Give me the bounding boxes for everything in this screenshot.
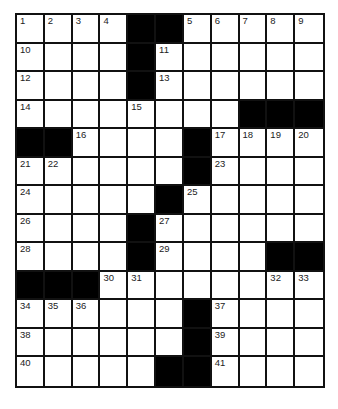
grid-cell[interactable]: 35: [45, 300, 73, 329]
grid-cell[interactable]: [295, 44, 323, 73]
grid-cell[interactable]: [184, 44, 212, 73]
grid-cell[interactable]: 32: [267, 272, 295, 301]
grid-cell[interactable]: [295, 186, 323, 215]
grid-cell[interactable]: [212, 44, 240, 73]
grid-cell[interactable]: [212, 215, 240, 244]
grid-cell[interactable]: 12: [17, 72, 45, 101]
grid-cell[interactable]: [295, 72, 323, 101]
grid-cell[interactable]: 13: [156, 72, 184, 101]
grid-cell[interactable]: [295, 300, 323, 329]
grid-cell[interactable]: [184, 215, 212, 244]
grid-cell[interactable]: [100, 300, 128, 329]
grid-cell[interactable]: [240, 300, 268, 329]
grid-cell[interactable]: 28: [17, 243, 45, 272]
grid-cell[interactable]: [45, 186, 73, 215]
grid-cell[interactable]: [212, 272, 240, 301]
grid-cell[interactable]: [45, 243, 73, 272]
grid-cell[interactable]: [73, 329, 101, 358]
grid-cell[interactable]: 7: [240, 15, 268, 44]
grid-cell[interactable]: 24: [17, 186, 45, 215]
grid-cell[interactable]: 10: [17, 44, 45, 73]
grid-cell[interactable]: [100, 101, 128, 130]
grid-cell[interactable]: 31: [128, 272, 156, 301]
grid-cell[interactable]: [73, 72, 101, 101]
grid-cell[interactable]: [100, 72, 128, 101]
grid-cell[interactable]: 30: [100, 272, 128, 301]
grid-cell[interactable]: [128, 357, 156, 386]
grid-cell[interactable]: 11: [156, 44, 184, 73]
grid-cell[interactable]: 36: [73, 300, 101, 329]
grid-cell[interactable]: [73, 186, 101, 215]
grid-cell[interactable]: [240, 158, 268, 187]
grid-cell[interactable]: [267, 300, 295, 329]
grid-cell[interactable]: [100, 329, 128, 358]
grid-cell[interactable]: [240, 186, 268, 215]
grid-cell[interactable]: [100, 215, 128, 244]
grid-cell[interactable]: [73, 357, 101, 386]
grid-cell[interactable]: [295, 215, 323, 244]
grid-cell[interactable]: [212, 72, 240, 101]
grid-cell[interactable]: 8: [267, 15, 295, 44]
grid-cell[interactable]: 17: [212, 129, 240, 158]
grid-cell[interactable]: [267, 186, 295, 215]
grid-cell[interactable]: [295, 357, 323, 386]
grid-cell[interactable]: [184, 72, 212, 101]
grid-cell[interactable]: 3: [73, 15, 101, 44]
grid-cell[interactable]: [73, 44, 101, 73]
grid-cell[interactable]: [156, 129, 184, 158]
grid-cell[interactable]: 2: [45, 15, 73, 44]
grid-cell[interactable]: [45, 44, 73, 73]
grid-cell[interactable]: [267, 329, 295, 358]
grid-cell[interactable]: [73, 101, 101, 130]
grid-cell[interactable]: [45, 357, 73, 386]
grid-cell[interactable]: [128, 329, 156, 358]
grid-cell[interactable]: [267, 44, 295, 73]
grid-cell[interactable]: 21: [17, 158, 45, 187]
grid-cell[interactable]: 40: [17, 357, 45, 386]
grid-cell[interactable]: [156, 300, 184, 329]
grid-cell[interactable]: [240, 329, 268, 358]
grid-cell[interactable]: [100, 243, 128, 272]
grid-cell[interactable]: [73, 215, 101, 244]
grid-cell[interactable]: [156, 329, 184, 358]
grid-cell[interactable]: [156, 158, 184, 187]
grid-cell[interactable]: [156, 101, 184, 130]
grid-cell[interactable]: 4: [100, 15, 128, 44]
grid-cell[interactable]: 26: [17, 215, 45, 244]
grid-cell[interactable]: [184, 101, 212, 130]
grid-cell[interactable]: [267, 72, 295, 101]
grid-cell[interactable]: 5: [184, 15, 212, 44]
grid-cell[interactable]: [128, 158, 156, 187]
grid-cell[interactable]: [240, 243, 268, 272]
grid-cell[interactable]: 39: [212, 329, 240, 358]
grid-cell[interactable]: [184, 243, 212, 272]
grid-cell[interactable]: [45, 72, 73, 101]
grid-cell[interactable]: 37: [212, 300, 240, 329]
grid-cell[interactable]: 18: [240, 129, 268, 158]
grid-cell[interactable]: [240, 44, 268, 73]
grid-cell[interactable]: [45, 215, 73, 244]
grid-cell[interactable]: [240, 272, 268, 301]
grid-cell[interactable]: 16: [73, 129, 101, 158]
grid-cell[interactable]: [212, 243, 240, 272]
grid-cell[interactable]: 34: [17, 300, 45, 329]
grid-cell[interactable]: [184, 272, 212, 301]
grid-cell[interactable]: [128, 300, 156, 329]
grid-cell[interactable]: 22: [45, 158, 73, 187]
grid-cell[interactable]: 20: [295, 129, 323, 158]
grid-cell[interactable]: 1: [17, 15, 45, 44]
grid-cell[interactable]: 33: [295, 272, 323, 301]
grid-cell[interactable]: [45, 101, 73, 130]
grid-cell[interactable]: [267, 158, 295, 187]
grid-cell[interactable]: [295, 158, 323, 187]
grid-cell[interactable]: [212, 101, 240, 130]
grid-cell[interactable]: 9: [295, 15, 323, 44]
grid-cell[interactable]: [267, 215, 295, 244]
grid-cell[interactable]: [295, 329, 323, 358]
grid-cell[interactable]: [212, 186, 240, 215]
grid-cell[interactable]: 23: [212, 158, 240, 187]
grid-cell[interactable]: [156, 272, 184, 301]
grid-cell[interactable]: [128, 129, 156, 158]
grid-cell[interactable]: [100, 158, 128, 187]
grid-cell[interactable]: 41: [212, 357, 240, 386]
